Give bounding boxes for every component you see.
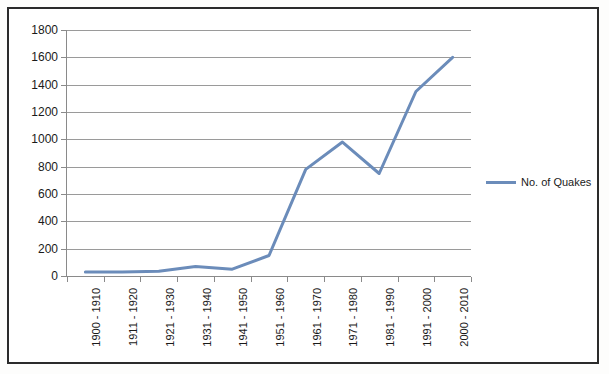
y-tick-mark-1800 [61,30,67,31]
x-tick-label-1931-1940: 1931 - 1940 [201,288,213,347]
gridline-1200 [67,112,471,113]
gridline-1800 [67,30,471,31]
x-tick-mark-9 [398,277,399,282]
x-tick-label-1941-1950: 1941 - 1950 [237,288,249,347]
y-tick-label-400: 400 [6,215,58,227]
x-tick-mark-1 [104,277,105,282]
y-tick-mark-200 [61,249,67,250]
x-tick-label-1961-1970: 1961 - 1970 [311,288,323,347]
x-tick-mark-11 [471,277,472,282]
x-tick-label-1900-1910: 1900 - 1910 [90,288,102,347]
x-tick-label-2000-2010: 2000 - 2010 [458,288,470,347]
gridline-200 [67,249,471,250]
plot-area [67,30,471,276]
legend-swatch-no-of-quakes [486,181,516,184]
y-axis-line [66,30,67,276]
gridline-1600 [67,57,471,58]
x-tick-mark-8 [361,277,362,282]
gridline-1000 [67,139,471,140]
gridline-400 [67,221,471,222]
legend-label-no-of-quakes: No. of Quakes [521,176,591,188]
y-tick-label-600: 600 [6,188,58,200]
x-tick-mark-3 [177,277,178,282]
y-tick-mark-800 [61,167,67,168]
x-tick-label-1971-1980: 1971 - 1980 [347,288,359,347]
x-tick-mark-10 [434,277,435,282]
x-tick-label-1981-1990: 1981 - 1990 [384,288,396,347]
y-tick-mark-1400 [61,85,67,86]
x-tick-label-1951-1960: 1951 - 1960 [274,288,286,347]
x-tick-mark-2 [140,277,141,282]
gridline-600 [67,194,471,195]
y-tick-label-800: 800 [6,161,58,173]
x-tick-label-1911-1920: 1911 - 1920 [127,288,139,346]
y-tick-mark-400 [61,221,67,222]
x-tick-label-1921-1930: 1921 - 1930 [164,288,176,347]
gridline-1400 [67,85,471,86]
x-tick-label-1991-2000: 1991 - 2000 [421,288,433,347]
x-tick-mark-7 [324,277,325,282]
y-tick-mark-1000 [61,139,67,140]
x-tick-mark-4 [214,277,215,282]
gridline-800 [67,167,471,168]
x-tick-mark-5 [251,277,252,282]
y-tick-mark-600 [61,194,67,195]
y-tick-label-0: 0 [6,270,58,282]
x-tick-mark-6 [287,277,288,282]
y-tick-mark-1600 [61,57,67,58]
y-tick-label-1200: 1200 [6,106,58,118]
y-tick-label-1600: 1600 [6,51,58,63]
x-tick-mark-0 [67,277,68,282]
y-tick-label-1800: 1800 [6,24,58,36]
chart-figure: 180016001400120010008006004002000 No. of… [0,0,609,374]
chart-legend: No. of Quakes [486,176,591,188]
y-axis-tick-labels: 180016001400120010008006004002000 [0,0,58,374]
x-axis-line [66,276,471,277]
y-tick-label-200: 200 [6,243,58,255]
y-tick-mark-1200 [61,112,67,113]
y-tick-label-1400: 1400 [6,79,58,91]
y-tick-label-1000: 1000 [6,133,58,145]
